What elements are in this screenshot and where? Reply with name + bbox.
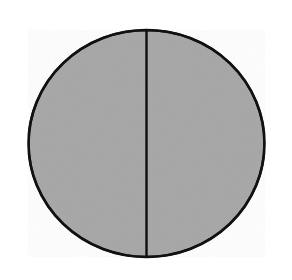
- pie-slice-2: [29, 30, 147, 257]
- pie-chart: [0, 0, 292, 280]
- pie-slice-1: [147, 30, 265, 257]
